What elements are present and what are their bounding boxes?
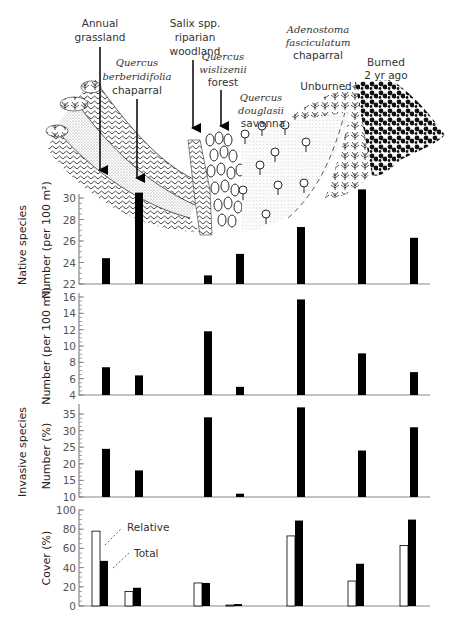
bar-relative <box>194 583 202 606</box>
group-label-native: Native species <box>16 205 29 285</box>
y-tick-label: 20 <box>63 581 76 593</box>
bar-relative <box>125 592 133 606</box>
label-adenostoma-1: Adenostoma <box>286 24 350 35</box>
y-tick-label: 100 <box>56 504 76 516</box>
y-tick-label: 60 <box>63 542 76 554</box>
y-tick-label: 10 <box>63 340 76 352</box>
y-tick-label: 6 <box>69 373 76 385</box>
label-adenostoma-2: fasciculatum <box>285 37 351 48</box>
bar-relative <box>92 531 100 606</box>
bar <box>204 275 212 284</box>
chart-invasive-cover: Cover (%) 020406080100 Relative Total <box>40 504 430 612</box>
bar <box>135 375 143 395</box>
bar <box>410 372 418 395</box>
bar-total <box>100 561 108 606</box>
y-tick-label: 24 <box>63 257 77 269</box>
bar-relative <box>400 546 408 606</box>
bar <box>358 189 366 284</box>
y-label-native-number: Number (per 100 m²) <box>40 181 53 299</box>
bar <box>236 494 244 497</box>
bar <box>410 427 418 497</box>
annotation-relative: Relative <box>127 521 169 533</box>
y-tick-label: 22 <box>63 278 76 290</box>
y-tick-label: 30 <box>63 192 76 204</box>
y-tick-label: 8 <box>69 356 76 368</box>
label-q-berberidifolia-2: berberidifolia <box>102 71 171 82</box>
chart-invasive-number: Number (per 100 m²) 46810121416 <box>40 287 430 405</box>
y-tick-label: 15 <box>63 474 76 486</box>
y-tick-label: 28 <box>63 214 76 226</box>
label-q-berberidifolia-3: chaparral <box>112 84 162 96</box>
bar-relative <box>348 581 356 606</box>
bar-total <box>234 604 242 606</box>
landscape-illustration <box>46 80 445 235</box>
label-adenostoma-3: chaparral <box>293 49 343 61</box>
bar <box>236 387 244 395</box>
y-tick-label: 0 <box>69 600 76 612</box>
label-q-douglasii-3: savanna <box>241 117 285 129</box>
y-tick-label: 40 <box>63 562 76 574</box>
figure: Annual grassland Quercus berberidifolia … <box>0 0 468 622</box>
label-salix-1: Salix spp. <box>170 17 221 29</box>
chart-invasive-percent: Number (%) 101520253035 <box>40 404 430 503</box>
label-burned-1: Burned <box>367 56 405 68</box>
bar <box>135 470 143 497</box>
bar-relative <box>287 536 295 606</box>
y-tick-label: 20 <box>63 458 76 470</box>
y-tick-label: 35 <box>63 408 76 420</box>
y-label-invasive-number: Number (per 100 m²) <box>40 287 53 405</box>
bar <box>297 227 305 284</box>
bar <box>204 417 212 497</box>
y-tick-label: 10 <box>63 491 76 503</box>
label-burned-2: 2 yr ago <box>364 69 407 81</box>
y-label-invasive-percent: Number (%) <box>40 423 53 490</box>
label-q-wislizenii-3: forest <box>208 76 238 88</box>
forest-trees <box>206 132 244 227</box>
bar-relative <box>226 605 234 606</box>
chart-native-number: Number (per 100 m²) 2224262830 <box>40 181 430 299</box>
bar-total <box>133 588 141 606</box>
label-q-douglasii-1: Quercus <box>240 92 283 103</box>
bar-total <box>356 564 364 606</box>
bar <box>297 299 305 395</box>
y-tick-label: 4 <box>69 389 76 401</box>
y-tick-label: 14 <box>63 307 77 319</box>
bar-total <box>295 521 303 606</box>
bar <box>102 367 110 395</box>
label-annual-grassland-1: Annual <box>82 17 119 29</box>
bar <box>358 353 366 395</box>
label-q-douglasii-2: douglasii <box>238 105 284 116</box>
bar-total <box>202 583 210 606</box>
leader-relative <box>105 528 122 545</box>
label-annual-grassland-2: grassland <box>74 31 125 43</box>
bar-total <box>408 520 416 606</box>
y-tick-label: 25 <box>63 441 76 453</box>
bar <box>297 407 305 497</box>
label-q-wislizenii-2: wislizenii <box>199 64 246 75</box>
y-tick-label: 80 <box>63 523 76 535</box>
label-unburned: Unburned <box>300 80 352 92</box>
y-tick-label: 16 <box>63 291 77 303</box>
bar <box>102 449 110 497</box>
bar <box>410 238 418 284</box>
y-tick-label: 12 <box>63 324 76 336</box>
group-label-invasive: Invasive species <box>16 407 29 497</box>
bar <box>135 193 143 284</box>
leader-total <box>113 552 130 568</box>
bar <box>358 451 366 497</box>
label-q-berberidifolia-1: Quercus <box>116 57 159 68</box>
label-q-wislizenii-1: Quercus <box>202 51 245 62</box>
bar <box>236 254 244 284</box>
y-tick-label: 30 <box>63 425 76 437</box>
bar <box>102 258 110 284</box>
label-salix-2: riparian <box>175 31 216 43</box>
y-label-cover: Cover (%) <box>40 531 53 586</box>
bar <box>204 331 212 395</box>
y-tick-label: 26 <box>63 235 77 247</box>
annotation-total: Total <box>133 547 159 559</box>
